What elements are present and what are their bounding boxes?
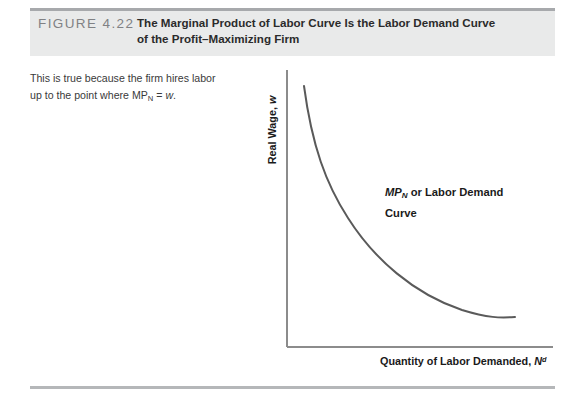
caption-line-1: This is true because the firm hires labo… bbox=[30, 72, 215, 84]
curve-annotation: MPN or Labor Demand Curve bbox=[385, 184, 545, 221]
x-axis-label-superscript: d bbox=[542, 355, 546, 364]
x-axis-label: Quantity of Labor Demanded, Nd bbox=[380, 355, 546, 367]
figure-title-line-1: The Marginal Product of Labor Curve Is t… bbox=[137, 16, 495, 29]
annotation-rest: or Labor Demand bbox=[408, 186, 504, 198]
caption-line-2-prefix: up to the point where MP bbox=[30, 89, 148, 101]
caption-equals: = bbox=[153, 89, 165, 101]
bottom-divider-rule bbox=[30, 386, 555, 389]
figure-title: The Marginal Product of Labor Curve Is t… bbox=[137, 15, 537, 46]
caption-variable-w: w bbox=[165, 89, 173, 101]
y-axis-label-variable: w bbox=[266, 96, 278, 104]
y-axis-label-inner: Real Wage, w bbox=[266, 70, 278, 190]
y-axis-label: Real Wage, w bbox=[255, 0, 267, 70]
annotation-line-2: Curve bbox=[385, 205, 545, 222]
caption-period: . bbox=[173, 89, 176, 101]
x-axis-label-variable: N bbox=[534, 355, 542, 367]
x-axis-label-text: Quantity of Labor Demanded, bbox=[380, 355, 534, 367]
figure-number-label: FIGURE 4.22 bbox=[38, 16, 134, 31]
annotation-variable-mp: MP bbox=[385, 186, 402, 198]
figure-title-line-2: of the Profit–Maximizing Firm bbox=[137, 31, 537, 47]
figure-caption: This is true because the firm hires labo… bbox=[30, 70, 245, 107]
y-axis-label-text: Real Wage, bbox=[266, 104, 278, 164]
